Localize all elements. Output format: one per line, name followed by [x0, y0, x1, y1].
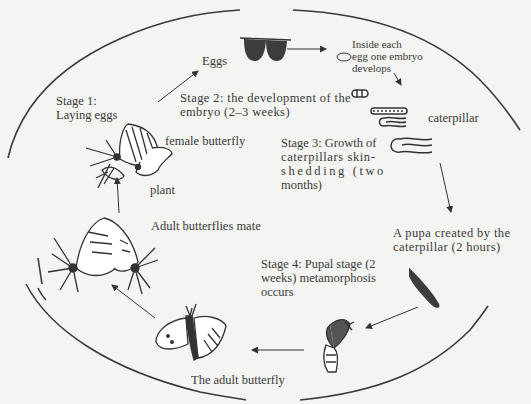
arrow-adult-to-mating	[112, 285, 155, 318]
embryo-egg-icon	[337, 53, 351, 61]
eggs-label: Eggs	[202, 54, 227, 68]
eggs-icon	[240, 38, 291, 61]
stage2-line-2: embryo (2–3 weeks)	[180, 105, 351, 119]
life-cycle-diagram: Stage 1: Laying eggs Eggs Inside each eg…	[0, 0, 531, 404]
embryo-line-3: develops	[352, 62, 423, 74]
caterpillar-label: caterpillar	[428, 111, 479, 125]
plant-label: plant	[150, 183, 175, 197]
female-butterfly-icon	[86, 124, 172, 188]
mate-label: Adult butterflies mate	[151, 219, 261, 233]
stage2-label: Stage 2: the development of the embryo (…	[180, 91, 351, 119]
stage3-line-1: Stage 3: Growth of	[281, 136, 375, 150]
stage1-title: Stage 1:	[56, 94, 117, 108]
embryo-line-2: egg one embryo	[352, 50, 423, 62]
pupa-line-1: A pupa created by the	[393, 226, 510, 240]
stage1-label: Stage 1: Laying eggs	[56, 94, 117, 122]
emerging-butterfly-icon	[324, 320, 354, 372]
adult-butterfly-icon	[156, 304, 226, 360]
stage2-line-1: Stage 2: the development of the	[180, 91, 351, 105]
stage4-line-1: Stage 4: Pupal stage (2	[261, 257, 376, 271]
cycle-ellipse	[8, 10, 520, 400]
pupa-line-2: caterpillar (2 hours)	[393, 240, 510, 254]
stage3-line-4: months)	[281, 178, 375, 192]
pupa-label: A pupa created by the caterpillar (2 hou…	[393, 226, 510, 254]
embryo-label: Inside each egg one embryo develops	[352, 38, 423, 74]
adult-butterfly-label: The adult butterfly	[191, 373, 285, 387]
stage4-line-2: weeks) metamorphosis	[261, 271, 376, 285]
stage3-label: Stage 3: Growth of caterpillars skin- sh…	[281, 136, 375, 192]
stage1-subtitle: Laying eggs	[56, 108, 117, 122]
arrow-pupa-to-emerging	[366, 307, 418, 328]
pupa-icon	[410, 270, 439, 307]
embryo-line-1: Inside each	[352, 38, 423, 50]
mating-butterflies-icon	[48, 218, 158, 294]
arrow-embryo-to-caterpillar	[394, 73, 401, 85]
arrow-mating-to-female	[117, 178, 119, 213]
diagram-graphics	[0, 0, 531, 404]
stage4-label: Stage 4: Pupal stage (2 weeks) metamorph…	[261, 257, 376, 299]
female-butterfly-label: female butterfly	[165, 134, 245, 148]
arrow-caterpillar-to-pupa	[440, 163, 451, 212]
stage4-line-3: occurs	[261, 285, 376, 299]
stage3-line-3: shedding (two	[281, 164, 375, 178]
stage3-line-2: caterpillars skin-	[281, 150, 375, 164]
